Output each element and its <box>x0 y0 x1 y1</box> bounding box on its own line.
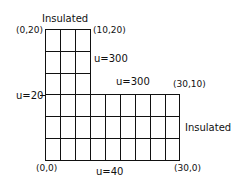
bc-label-left: u=20 <box>16 91 43 101</box>
corner-label-30-10: (30,10) <box>173 80 206 89</box>
top-insulated-label: Insulated <box>42 14 88 24</box>
corner-label-10-20: (10,20) <box>93 26 126 35</box>
right-insulated-label: Insulated <box>185 123 231 133</box>
corner-label-0-20: (0,20) <box>16 26 43 35</box>
bc-label-bottom: u=40 <box>96 167 123 177</box>
bc-label-step-top: u=300 <box>116 77 150 87</box>
corner-label-0-0: (0,0) <box>36 164 57 173</box>
corner-label-30-0: (30,0) <box>174 164 201 173</box>
bc-label-upper-right: u=300 <box>94 54 128 64</box>
